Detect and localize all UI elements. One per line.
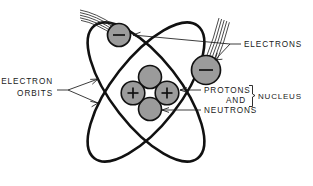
- label-protons: PROTONS: [204, 86, 251, 95]
- nucleus-group: [121, 66, 179, 121]
- label-electron-orbits-line2: ORBITS: [17, 89, 53, 98]
- electron-orbits-leader-arrow-2: [68, 90, 98, 103]
- label-and: AND: [226, 96, 246, 105]
- atom-diagram-canvas: ELECTRONS ELECTRON ORBITS PROTONS AND NE…: [0, 0, 313, 186]
- electron-orbits-leader-arrow-1: [68, 79, 98, 90]
- atom-diagram-figure: ELECTRONS ELECTRON ORBITS PROTONS AND NE…: [0, 0, 313, 186]
- label-electron-orbits-line1: ELECTRON: [1, 77, 53, 86]
- label-nucleus: NUCLEUS: [258, 92, 302, 101]
- electron-orbits-leader-group: [57, 79, 98, 107]
- label-electrons: ELECTRONS: [244, 40, 302, 49]
- electron-orbits-group: [67, 5, 224, 179]
- label-neutrons: NEUTRONS: [204, 106, 257, 115]
